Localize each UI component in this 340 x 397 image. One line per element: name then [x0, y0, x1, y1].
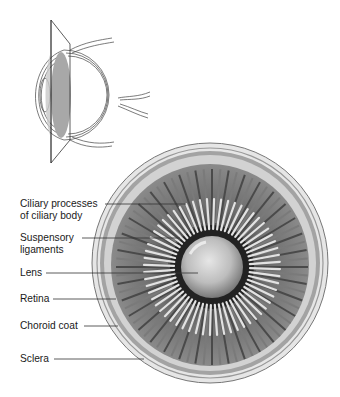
- label-sclera: Sclera: [20, 353, 49, 365]
- label-line: Lens: [20, 267, 42, 279]
- label-retina: Retina: [20, 293, 49, 305]
- label-ciliary-processes: Ciliary processes of ciliary body: [20, 198, 98, 222]
- label-choroid-coat: Choroid coat: [20, 320, 78, 332]
- label-line: Sclera: [20, 353, 49, 365]
- label-line: Retina: [20, 293, 49, 305]
- lens: [181, 236, 243, 298]
- label-lens: Lens: [20, 267, 42, 279]
- label-line: of ciliary body: [20, 210, 98, 222]
- eye-anatomy-figure: Ciliary processes of ciliary body Suspen…: [0, 0, 340, 397]
- label-line: Choroid coat: [20, 320, 78, 332]
- label-suspensory-ligaments: Suspensory ligaments: [20, 232, 74, 256]
- label-line: Ciliary processes: [20, 198, 98, 210]
- label-line: Suspensory: [20, 232, 74, 244]
- label-line: ligaments: [20, 244, 74, 256]
